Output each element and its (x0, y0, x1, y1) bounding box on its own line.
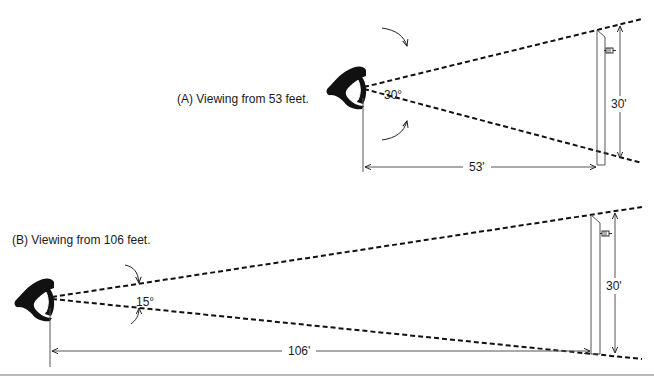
viewing-distance-diagram: (A) Viewing from 53 feet. 30° 53' 30' (B… (0, 0, 654, 380)
panel-a-caption: (A) Viewing from 53 feet. (177, 93, 309, 105)
panel-a (327, 19, 642, 172)
diagram-graphics (0, 0, 654, 380)
viewer-head-icon (15, 279, 55, 322)
speaker-icon (604, 48, 616, 53)
panel-b-distance-label: 106' (282, 345, 316, 357)
viewer-head-icon (327, 67, 367, 110)
panel-a-screen-height-label: 30' (610, 96, 628, 112)
panel-a-distance-label: 53' (463, 161, 491, 173)
speaker-icon (600, 231, 612, 236)
panel-b-angle-label: 15° (136, 296, 154, 308)
panel-b-caption: (B) Viewing from 106 feet. (12, 234, 151, 246)
panel-b-screen-height-label: 30' (605, 278, 623, 294)
panel-a-angle-label: 30° (384, 89, 402, 101)
panel-b (15, 207, 642, 367)
